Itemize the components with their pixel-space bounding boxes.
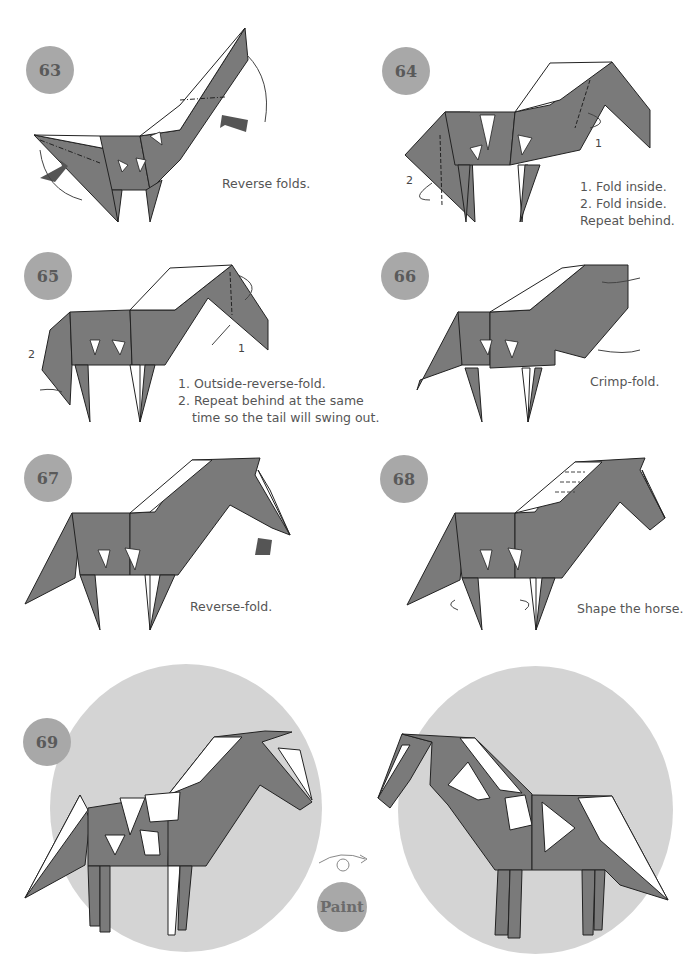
step-63-diagram <box>0 0 350 240</box>
caption-line: Reverse folds. <box>222 175 310 192</box>
step-64-label-1: 1 <box>595 137 602 150</box>
caption-line: 2. Fold inside. <box>580 195 675 212</box>
caption-line: Shape the horse. <box>577 600 684 617</box>
step-67-diagram <box>0 430 350 630</box>
origami-instructions-page: 63 Reverse folds. 64 <box>0 0 695 964</box>
step-65-label-1: 1 <box>238 342 245 355</box>
step-66-diagram <box>350 240 695 430</box>
finished-horse-front-view <box>0 630 350 964</box>
caption-line: Reverse-fold. <box>190 598 272 615</box>
caption-line: 1. Fold inside. <box>580 178 675 195</box>
finished-horse-back-view <box>300 630 695 964</box>
caption-line: Repeat behind. <box>580 212 675 229</box>
step-64-label-2: 2 <box>406 174 413 187</box>
step-68-caption: Shape the horse. <box>577 600 684 617</box>
step-66-caption: Crimp-fold. <box>590 373 659 390</box>
step-63-caption: Reverse folds. <box>222 175 310 192</box>
step-64-caption: 1. Fold inside. 2. Fold inside. Repeat b… <box>580 178 675 229</box>
step-67-caption: Reverse-fold. <box>190 598 272 615</box>
step-65-label-2: 2 <box>28 348 35 361</box>
caption-line: Crimp-fold. <box>590 373 659 390</box>
